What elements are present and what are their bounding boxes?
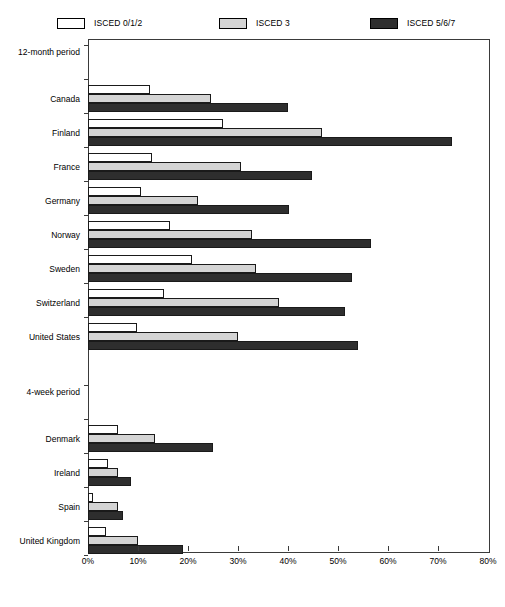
x-axis-tick-label: 30% (229, 557, 246, 566)
y-axis-tick (84, 317, 88, 318)
bar-low (88, 527, 106, 536)
legend-swatch-mid (219, 18, 247, 29)
bar-mid (88, 128, 322, 137)
bar-high (88, 239, 371, 248)
category-label: Finland (0, 129, 80, 138)
x-axis-tick (138, 546, 139, 551)
category-label: Ireland (0, 469, 80, 478)
category-label: United States (0, 333, 80, 342)
bar-low (88, 221, 170, 230)
y-axis-tick (84, 215, 88, 216)
bar-high (88, 443, 213, 452)
bar-low (88, 255, 192, 264)
bar-low (88, 323, 137, 332)
bar-mid (88, 230, 252, 239)
x-axis-tick-label: 40% (279, 557, 296, 566)
bar-low (88, 493, 93, 502)
y-axis-tick (84, 45, 88, 46)
bar-low (88, 289, 164, 298)
bar-low (88, 459, 108, 468)
category-label: France (0, 163, 80, 172)
bar-mid (88, 264, 256, 273)
bar-low (88, 119, 223, 128)
group-label-0: 12-month period (0, 48, 80, 57)
bar-mid (88, 162, 241, 171)
y-axis-tick (84, 419, 88, 420)
bar-low (88, 153, 152, 162)
category-label: Germany (0, 197, 80, 206)
bar-mid (88, 468, 118, 477)
bar-high (88, 205, 289, 214)
plot-area (88, 39, 488, 551)
y-axis-tick (84, 249, 88, 250)
legend-item[interactable]: ISCED 0/1/2 (57, 16, 142, 30)
y-axis-tick (84, 147, 88, 148)
y-axis-tick (84, 487, 88, 488)
bar-mid (88, 536, 138, 545)
legend-label: ISCED 0/1/2 (94, 19, 142, 28)
bar-low (88, 85, 150, 94)
y-axis-tick (84, 453, 88, 454)
x-axis-tick (188, 546, 189, 551)
y-axis-tick (84, 181, 88, 182)
legend-label: ISCED 3 (256, 19, 290, 28)
category-label: Denmark (0, 435, 80, 444)
category-axis-labels: 12-month periodCanadaFinlandFranceGerman… (0, 39, 84, 551)
category-label: Sweden (0, 265, 80, 274)
y-axis-tick (84, 79, 88, 80)
bar-high (88, 273, 352, 282)
x-axis-tick-label: 0% (82, 557, 94, 566)
bar-mid (88, 434, 155, 443)
y-axis-tick (84, 283, 88, 284)
bar-low (88, 425, 118, 434)
x-axis-tick (388, 546, 389, 551)
bar-low (88, 187, 141, 196)
category-label: Canada (0, 95, 80, 104)
bar-high (88, 103, 288, 112)
category-label: United Kingdom (0, 537, 80, 546)
x-axis-tick-label: 80% (479, 557, 496, 566)
x-axis-tick-label: 20% (179, 557, 196, 566)
bar-mid (88, 196, 198, 205)
bar-mid (88, 94, 211, 103)
x-axis-tick (438, 546, 439, 551)
bar-high (88, 477, 131, 486)
legend-item[interactable]: ISCED 5/6/7 (370, 16, 455, 30)
legend-swatch-high (370, 18, 398, 29)
x-axis-tick-label: 10% (129, 557, 146, 566)
category-label: Spain (0, 503, 80, 512)
bar-mid (88, 502, 118, 511)
x-axis-tick-label: 60% (379, 557, 396, 566)
x-axis: 0%10%20%30%40%50%60%70%80% (88, 551, 488, 579)
bar-mid (88, 332, 238, 341)
bar-high (88, 307, 345, 316)
y-axis-tick (84, 521, 88, 522)
x-axis-tick (288, 546, 289, 551)
legend-item[interactable]: ISCED 3 (219, 16, 290, 30)
legend-label: ISCED 5/6/7 (407, 19, 455, 28)
x-axis-tick-label: 50% (329, 557, 346, 566)
group-label-1: 4-week period (0, 388, 80, 397)
legend-swatch-low (57, 18, 85, 29)
x-axis-tick (238, 546, 239, 551)
bar-high (88, 171, 312, 180)
category-label: Switzerland (0, 299, 80, 308)
bar-high (88, 137, 452, 146)
y-axis-tick (84, 113, 88, 114)
x-axis-tick (338, 546, 339, 551)
chart-legend: ISCED 0/1/2ISCED 3ISCED 5/6/7 (0, 16, 505, 36)
bar-high (88, 511, 123, 520)
bar-mid (88, 298, 279, 307)
category-label: Norway (0, 231, 80, 240)
x-axis-tick-label: 70% (429, 557, 446, 566)
bar-high (88, 341, 358, 350)
y-axis-tick (84, 385, 88, 386)
